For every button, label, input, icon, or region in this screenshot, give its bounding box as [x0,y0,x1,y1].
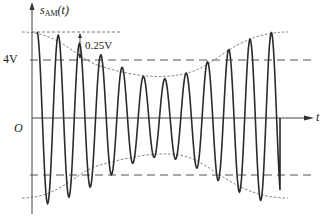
y-axis-argument: (t) [58,3,69,17]
lower-envelope [22,154,288,198]
y-axis-label: sAM(t) [40,4,69,18]
x-axis-label: t [316,111,319,123]
delta-label: 0.25V [85,40,112,51]
delta-arrow-up-icon [78,33,82,38]
y-axis-subscript: AM [45,9,58,18]
x-axis-arrow-icon [304,116,314,121]
y-axis-arrow-icon [30,2,35,10]
carrier-level-label: 4V [3,53,18,65]
am-waveform-diagram [0,0,326,216]
origin-label: O [14,122,23,134]
